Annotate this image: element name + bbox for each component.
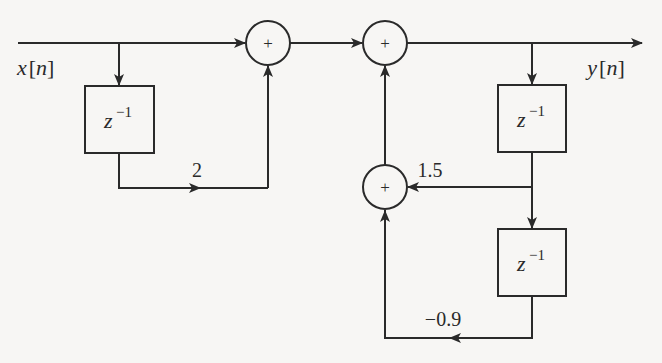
svg-text:z: z bbox=[516, 251, 526, 276]
block-diagram: + + + z −1 z −1 z −1 2 1.5 −0.9 x[n] y[n… bbox=[0, 0, 662, 363]
svg-text:y[n]: y[n] bbox=[585, 55, 624, 80]
delay-feedback-2: z −1 bbox=[498, 229, 566, 296]
gain-feedback-1-label: 1.5 bbox=[418, 159, 443, 181]
svg-text:−1: −1 bbox=[529, 247, 545, 263]
delay-feedback-1: z −1 bbox=[498, 85, 566, 152]
svg-text:z: z bbox=[103, 108, 113, 133]
adder-1: + bbox=[246, 21, 290, 65]
svg-text:z: z bbox=[516, 107, 526, 132]
adder-2: + bbox=[363, 21, 407, 65]
gain-feedback-2-label: −0.9 bbox=[425, 308, 461, 330]
adder-3: + bbox=[363, 165, 407, 209]
svg-text:−1: −1 bbox=[529, 103, 545, 119]
plus-icon: + bbox=[380, 178, 390, 197]
svg-text:−1: −1 bbox=[116, 104, 132, 120]
delay-feedforward: z −1 bbox=[85, 86, 154, 153]
output-label: y[n] bbox=[585, 55, 624, 80]
plus-icon: + bbox=[263, 34, 273, 53]
gain-feedforward-label: 2 bbox=[192, 159, 202, 181]
input-label: x[n] bbox=[16, 55, 54, 80]
svg-text:x[n]: x[n] bbox=[16, 55, 54, 80]
plus-icon: + bbox=[380, 34, 390, 53]
